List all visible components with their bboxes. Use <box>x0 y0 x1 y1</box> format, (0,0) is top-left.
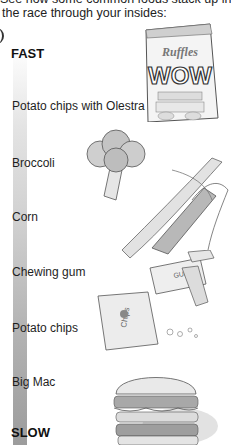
food-label-corn: Corn <box>12 210 38 224</box>
food-label-chewing-gum: Chewing gum <box>12 265 85 279</box>
food-label-potato-chips: Potato chips <box>12 321 78 335</box>
food-label-broccoli: Broccoli <box>12 156 55 170</box>
slow-label: SLOW <box>11 425 50 440</box>
food-label-big-mac: Big Mac <box>12 375 55 389</box>
decorative-mark <box>0 28 4 44</box>
svg-text:WOW: WOW <box>148 62 212 89</box>
svg-text:Ruffles: Ruffles <box>161 45 198 59</box>
fast-label: FAST <box>11 46 44 61</box>
corn-cob-icon <box>112 150 230 260</box>
chips-bag-icon: Chips <box>96 290 204 352</box>
food-label-olestra-chips: Potato chips with Olestra <box>12 99 145 113</box>
chips-bag-wow-icon: Ruffles WOW <box>138 22 220 122</box>
burger-icon <box>110 366 220 445</box>
intro-text-line2: the race through your insides: <box>2 6 167 20</box>
